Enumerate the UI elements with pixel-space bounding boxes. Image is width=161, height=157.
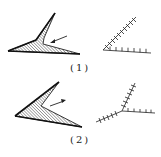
motion-arrow-icon — [50, 99, 66, 106]
hatched-arrowhead-shape — [15, 82, 82, 127]
hatched-wedge-shape — [8, 13, 80, 54]
ticked-v-lines — [103, 17, 151, 53]
motion-arrow-icon — [50, 36, 67, 43]
figure-2-caption: (2) — [70, 134, 90, 145]
figure-2 — [15, 82, 155, 127]
figure-1 — [8, 13, 151, 54]
figure-1-caption: (1) — [70, 62, 90, 73]
ticked-y-junction — [96, 83, 155, 123]
